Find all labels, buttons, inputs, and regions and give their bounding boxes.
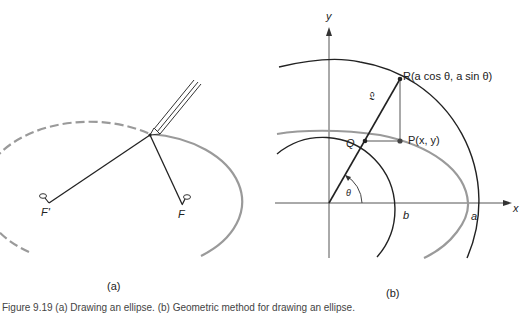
point-r — [398, 77, 403, 82]
pin-f-icon — [182, 195, 191, 205]
string-to-f-prime — [49, 135, 150, 203]
point-p-label: P(x, y) — [408, 134, 440, 146]
x-axis-arrow-icon — [503, 200, 512, 206]
y-axis-label: y — [325, 10, 333, 22]
panel-a: F' F (a) — [0, 80, 242, 292]
theta-arrow-icon — [345, 175, 351, 181]
y-axis-arrow-icon — [326, 27, 332, 36]
outer-circle-arc — [279, 59, 479, 258]
line-script-l-label: 𝔏 — [369, 91, 375, 102]
pin-f-prime-icon — [40, 194, 50, 203]
inner-radius-b-label: b — [403, 209, 409, 221]
panel-b-label: (b) — [386, 287, 399, 299]
focus-f-prime-label: F' — [41, 206, 51, 218]
point-q — [363, 139, 368, 144]
ellipse-dashed-arc — [0, 122, 150, 252]
theta-label: θ — [346, 188, 351, 198]
string-to-f — [150, 135, 182, 204]
ellipse-solid-arc — [150, 134, 242, 256]
point-p — [397, 138, 402, 143]
pencil-icon — [148, 80, 201, 137]
focus-f-label: F — [178, 208, 186, 220]
ellipse-curve — [277, 131, 468, 258]
point-q-label: Q — [346, 137, 355, 149]
inner-circle-arc — [277, 137, 395, 257]
panel-b: x y R(a cos θ, a sin θ) P(x, y) Q θ 𝔏 b … — [275, 10, 519, 299]
outer-radius-a-label: a — [471, 210, 477, 222]
figure-caption: Figure 9.19 (a) Drawing an ellipse. (b) … — [2, 302, 355, 313]
panel-a-label: (a) — [107, 280, 120, 292]
point-r-label: R(a cos θ, a sin θ) — [403, 70, 492, 82]
x-axis-label: x — [512, 202, 519, 214]
